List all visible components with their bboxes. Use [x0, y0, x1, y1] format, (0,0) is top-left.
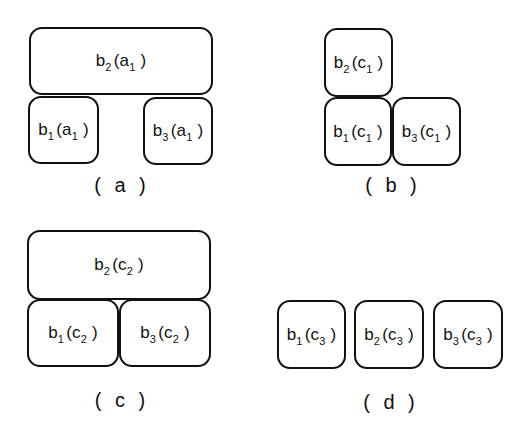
- box-b3-a1: b3(a1 ): [143, 97, 213, 165]
- box-label: b3(c1 ): [402, 122, 452, 142]
- box-label: b2(c1 ): [334, 53, 384, 73]
- panel-caption: ( b ): [365, 174, 421, 197]
- box-b1-c2: b1(c2 ): [27, 299, 119, 367]
- panel-caption: ( c ): [95, 389, 149, 412]
- box-b2-a1: b2(a1 ): [29, 27, 213, 95]
- box-b3-c3: b3(c3 ): [433, 300, 503, 369]
- box-b1-a1: b1(a1 ): [28, 96, 99, 164]
- box-label: b1(c1 ): [333, 122, 383, 142]
- box-label: b3(c3 ): [443, 325, 493, 345]
- box-b2-c3: b2(c3 ): [354, 300, 424, 369]
- box-label: b2(c3 ): [364, 325, 414, 345]
- panel-caption: ( a ): [94, 174, 150, 197]
- box-label: b3(a1 ): [153, 121, 204, 141]
- box-label: b1(a1 ): [38, 120, 89, 140]
- box-b2-c1: b2(c1 ): [324, 28, 393, 97]
- box-label: b1(c3 ): [287, 325, 337, 345]
- box-b1-c3: b1(c3 ): [277, 300, 346, 369]
- box-label: b3(c2 ): [140, 323, 190, 343]
- box-label: b2(c2 ): [94, 255, 144, 275]
- box-b1-c1: b1(c1 ): [324, 97, 392, 166]
- box-b3-c2: b3(c2 ): [119, 299, 211, 367]
- box-label: b1(c2 ): [48, 323, 98, 343]
- box-b3-c1: b3(c1 ): [392, 97, 461, 166]
- box-b2-c2: b2(c2 ): [27, 230, 211, 300]
- box-label: b2(a1 ): [96, 51, 147, 71]
- panel-caption: ( d ): [363, 391, 419, 414]
